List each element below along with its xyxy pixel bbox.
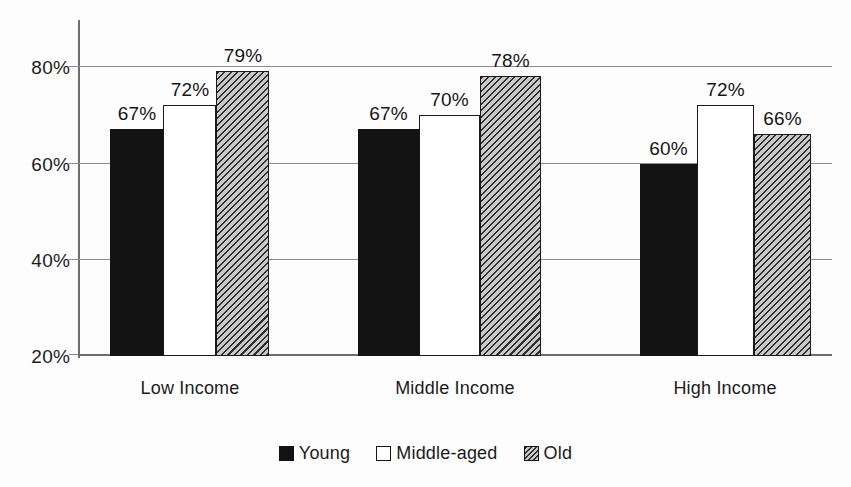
chart-legend: Young Middle-aged Old <box>0 443 851 464</box>
bar-low-income-old <box>216 71 269 356</box>
bar-low-income-middle-aged <box>163 105 216 356</box>
y-axis-label-20: 20% <box>8 346 70 368</box>
white-outline-swatch-icon <box>376 446 391 461</box>
bar-value-middle-income-old: 78% <box>474 50 547 72</box>
bar-middle-income-old <box>480 76 541 356</box>
legend-label-young: Young <box>299 443 350 464</box>
y-axis-label-80: 80% <box>8 57 70 79</box>
diagonal-hatch-swatch-icon <box>524 446 539 461</box>
legend-label-old: Old <box>544 443 573 464</box>
bar-value-high-income-middle-aged: 72% <box>691 79 760 101</box>
bar-value-low-income-middle-aged: 72% <box>157 79 223 101</box>
y-axis-label-40: 40% <box>8 250 70 272</box>
legend-label-middle-aged: Middle-aged <box>396 443 497 464</box>
gridline-80 <box>78 66 832 67</box>
bar-high-income-middle-aged <box>697 105 754 356</box>
plot-area: 67% 72% 79% 67% 70% 78% 60% 72% 66% <box>78 20 832 356</box>
y-axis-label-60: 60% <box>8 154 70 176</box>
bar-value-high-income-old: 66% <box>748 108 817 130</box>
solid-black-swatch-icon <box>279 446 294 461</box>
legend-item-young: Young <box>279 443 350 464</box>
bar-chart: 80% 60% 40% 20% 67% 72% 79% 67% 70% 78% … <box>0 0 851 487</box>
category-label-low-income: Low Income <box>110 378 270 399</box>
legend-item-old: Old <box>524 443 573 464</box>
bar-value-low-income-young: 67% <box>104 103 170 125</box>
category-label-middle-income: Middle Income <box>370 378 540 399</box>
bar-middle-income-middle-aged <box>419 115 480 356</box>
bar-middle-income-young <box>358 129 419 356</box>
bar-low-income-young <box>110 129 163 356</box>
category-label-high-income: High Income <box>645 378 805 399</box>
bar-high-income-old <box>754 134 811 356</box>
legend-item-middle-aged: Middle-aged <box>376 443 497 464</box>
bar-value-low-income-old: 79% <box>210 45 276 67</box>
bar-value-middle-income-middle-aged: 70% <box>413 89 486 111</box>
bar-value-high-income-young: 60% <box>634 138 703 160</box>
bar-high-income-young <box>640 164 697 356</box>
